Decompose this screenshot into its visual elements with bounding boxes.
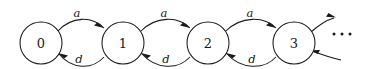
edge-label-a-0: a	[74, 6, 81, 20]
ellipsis-dot-1	[333, 33, 336, 36]
edge-s0-s1-a: a	[58, 6, 104, 31]
continuation-ellipsis	[333, 33, 352, 36]
arrowhead-into-s1	[94, 22, 104, 28]
edge-label-d-1: d	[162, 52, 169, 66]
edge-s2-s3-a: a	[226, 6, 276, 31]
ellipsis-dot-3	[349, 33, 352, 36]
edge-s2-s1-d: d	[141, 52, 190, 66]
edge-s1-s2-a: a	[141, 6, 190, 31]
node-label-3: 3	[290, 36, 298, 51]
arrowhead-into-s3	[266, 22, 276, 28]
edge-s1-s0-d: d	[58, 52, 104, 66]
edge-s3-next-a	[311, 13, 336, 32]
state-transition-diagram: a a a d d d	[0, 0, 368, 69]
node-state-0[interactable]: 0	[20, 22, 62, 64]
edge-label-a-2: a	[247, 6, 254, 20]
node-state-3[interactable]: 3	[273, 22, 315, 64]
ellipsis-dot-2	[341, 33, 344, 36]
edge-label-d-0: d	[75, 52, 82, 66]
node-label-0: 0	[37, 36, 45, 51]
arrowhead-outgoing-right	[326, 13, 336, 18]
edge-path-s3-next	[311, 18, 334, 32]
node-state-1[interactable]: 1	[102, 22, 144, 64]
node-label-1: 1	[119, 36, 127, 51]
edge-label-a-1: a	[161, 6, 168, 20]
diagram-canvas: a a a d d d	[0, 0, 368, 69]
node-state-2[interactable]: 2	[187, 22, 229, 64]
arrowhead-into-s2	[180, 22, 190, 28]
edge-s3-s2-d: d	[226, 52, 276, 66]
edge-label-d-2: d	[248, 52, 255, 66]
edge-next-s3-d	[310, 50, 341, 60]
node-label-2: 2	[204, 36, 212, 51]
